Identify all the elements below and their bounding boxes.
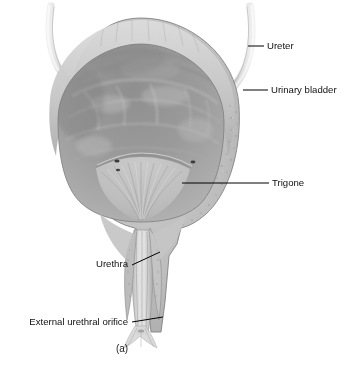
label-urethra: Urethra (96, 258, 129, 269)
figure-container: Ureter Urinary bladder Trigone Urethra E… (0, 0, 356, 367)
figure-caption: (a) (116, 343, 128, 354)
bladder-anatomy-illustration: Ureter Urinary bladder Trigone Urethra E… (0, 0, 356, 367)
label-urinary-bladder: Urinary bladder (271, 84, 337, 95)
label-ureter: Ureter (267, 40, 294, 51)
label-external-urethral-orifice: External urethral orifice (29, 316, 128, 327)
label-trigone: Trigone (272, 177, 304, 188)
right-ureteric-orifice (191, 161, 196, 164)
